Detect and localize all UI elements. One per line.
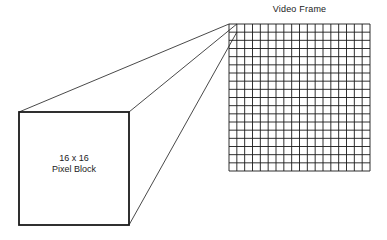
diagram-canvas: Video Frame 16 x 16 Pixel Block bbox=[0, 0, 387, 240]
video-frame-title: Video Frame bbox=[229, 4, 370, 14]
pixel-block-size: 16 x 16 bbox=[19, 153, 129, 164]
projection-line-top-right bbox=[129, 24, 237, 112]
pixel-block-name: Pixel Block bbox=[19, 164, 129, 175]
diagram-graphics bbox=[0, 0, 387, 240]
projection-line-top-left bbox=[19, 24, 229, 112]
video-frame-grid bbox=[229, 24, 370, 171]
pixel-block-label: 16 x 16 Pixel Block bbox=[19, 153, 129, 175]
projection-line-bottom-right bbox=[129, 32, 237, 225]
